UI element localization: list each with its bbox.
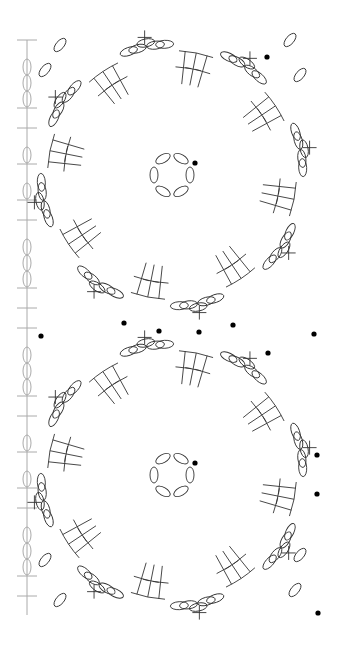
corner-chain-icon (37, 61, 53, 78)
dc-crossbar (113, 376, 127, 384)
ring-chain-icon (154, 484, 172, 499)
crochet-diagram (0, 0, 344, 646)
chain-stitch-icon (52, 90, 69, 109)
corner-chain-icon (292, 66, 308, 83)
start-marker-icon (264, 54, 269, 59)
left-chain-strip (17, 40, 37, 615)
chain-stitch-icon (276, 540, 293, 559)
chain-stitch-icon (298, 439, 309, 458)
bottom-motif (27, 330, 316, 619)
start-marker-icon (311, 331, 316, 336)
ring-chain-icon (172, 451, 190, 466)
chain-stitch-icon (189, 301, 208, 312)
ring-chain-icon (154, 184, 172, 199)
ring-chain-icon (172, 184, 190, 199)
start-marker-icon (192, 460, 197, 465)
motifs-group (27, 30, 316, 619)
chain-stitch-icon (34, 192, 45, 211)
start-marker-icon (314, 452, 319, 457)
ring-chain-icon (172, 151, 190, 166)
chain-stitch-icon (136, 337, 155, 348)
corner-chain-icon (37, 551, 53, 568)
dc-crossbar (217, 266, 231, 274)
dc-crossbar (73, 520, 81, 534)
start-marker-icon (156, 328, 161, 333)
dc-crossbar (263, 416, 271, 430)
corner-chain-icon (52, 36, 68, 53)
chain-stitch-icon (87, 279, 106, 296)
dc-crossbar (217, 566, 231, 574)
start-marker-icon (265, 350, 270, 355)
ring-chain-icon (150, 467, 158, 483)
chain-stitch-icon (136, 37, 155, 48)
start-markers (38, 54, 320, 615)
start-marker-icon (121, 320, 126, 325)
chain-stitch-icon (276, 240, 293, 259)
chain-stitch-icon (237, 55, 256, 72)
start-marker-icon (315, 610, 320, 615)
dc-crossbar (113, 76, 127, 84)
chain-stitch-icon (87, 579, 106, 596)
chain-stitch-icon (298, 139, 309, 158)
dc-crossbar (263, 116, 271, 130)
dc-crossbar (73, 220, 81, 234)
ring-chain-icon (150, 167, 158, 183)
corner-chain-icon (287, 581, 303, 598)
chain-stitch-icon (189, 601, 208, 612)
chain-stitch-icon (237, 355, 256, 372)
start-marker-icon (314, 491, 319, 496)
ring-chain-icon (186, 467, 194, 483)
ring-chain-icon (186, 167, 194, 183)
corner-chain-icon (52, 591, 68, 608)
start-marker-icon (230, 322, 235, 327)
chain-stitch-icon (52, 390, 69, 409)
ring-chain-icon (172, 484, 190, 499)
top-motif (27, 30, 316, 319)
ring-chain-icon (154, 451, 172, 466)
corner-chain-icon (282, 31, 298, 48)
corner-chain-icon (292, 546, 308, 563)
start-marker-icon (38, 333, 43, 338)
start-marker-icon (192, 160, 197, 165)
start-marker-icon (196, 329, 201, 334)
ring-chain-icon (154, 151, 172, 166)
